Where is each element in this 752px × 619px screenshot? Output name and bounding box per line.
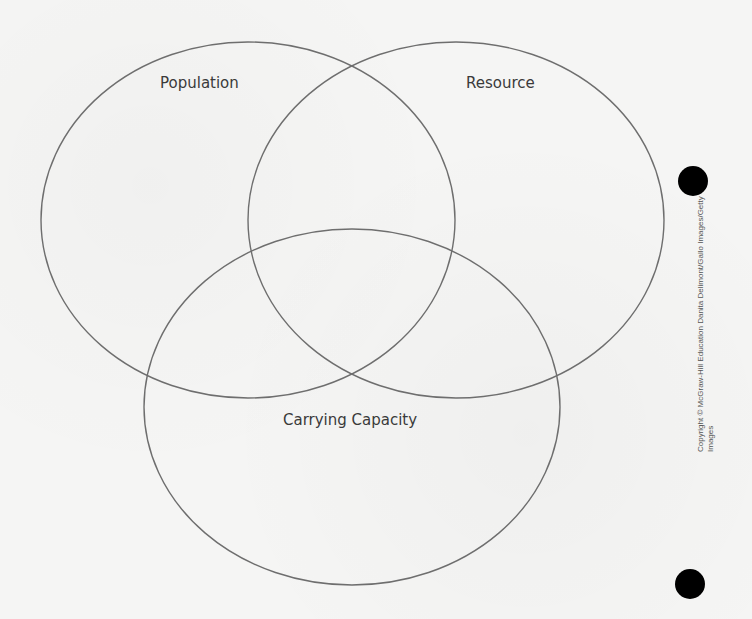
carrying-capacity-circle [144, 229, 560, 585]
credit-line-2: Images [706, 196, 716, 452]
binder-hole-icon [678, 166, 708, 196]
venn-diagram [0, 0, 752, 619]
population-label: Population [160, 74, 239, 92]
copyright-credit: Copyright © McGraw-Hill Education Danita… [696, 196, 716, 452]
resource-label: Resource [466, 74, 535, 92]
carrying-capacity-label: Carrying Capacity [283, 411, 417, 429]
credit-line-1: Copyright © McGraw-Hill Education Danita… [696, 196, 706, 452]
resource-circle [248, 42, 664, 398]
binder-hole-icon [675, 569, 705, 599]
